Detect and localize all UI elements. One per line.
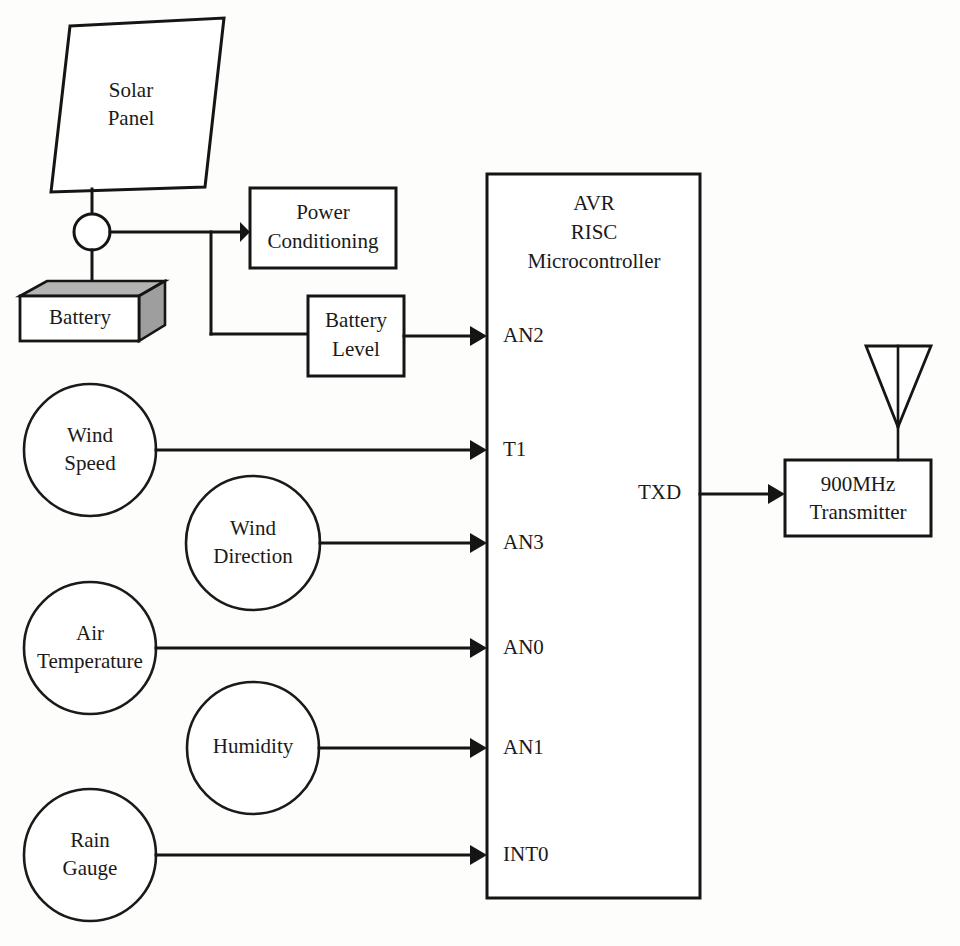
wind-direction-sensor-node[interactable]: Wind Direction <box>186 476 320 610</box>
air-temperature-label-line1: Air <box>76 621 104 645</box>
wind-direction-label-line1: Wind <box>230 516 276 540</box>
diagram-canvas: Solar Panel Battery Power Conditioning <box>0 0 960 946</box>
microcontroller-node[interactable]: AVR RISC Microcontroller AN2 T1 AN3 AN0 … <box>487 174 700 898</box>
rain-gauge-sensor-node[interactable]: Rain Gauge <box>24 789 156 921</box>
weather-station-diagram: Solar Panel Battery Power Conditioning <box>0 0 960 946</box>
solar-panel-label-line2: Panel <box>108 106 155 130</box>
battery-node[interactable]: Battery <box>20 281 165 341</box>
humidity-label: Humidity <box>213 734 294 758</box>
battery-level-label-line2: Level <box>332 337 380 361</box>
mcu-pin-label-txd: TXD <box>638 480 681 504</box>
rain-gauge-label-line1: Rain <box>70 828 110 852</box>
mcu-pin-label-t1: T1 <box>503 437 526 461</box>
battery-level-node[interactable]: Battery Level <box>308 296 404 376</box>
mcu-pin-label-an0: AN0 <box>503 635 544 659</box>
transmitter-label-line1: 900MHz <box>821 472 896 496</box>
arrowhead-an2 <box>470 326 487 346</box>
arrowhead-an3 <box>470 533 487 553</box>
arrowhead-an0 <box>470 638 487 658</box>
arrowhead-transmitter <box>768 484 785 504</box>
wind-speed-label-line1: Wind <box>67 423 113 447</box>
mcu-pin-label-an2: AN2 <box>503 323 544 347</box>
power-conditioning-label-line2: Conditioning <box>268 229 379 253</box>
wind-speed-sensor-node[interactable]: Wind Speed <box>24 384 156 516</box>
rain-gauge-label-line2: Gauge <box>63 856 118 880</box>
wind-speed-label-line2: Speed <box>64 451 116 475</box>
battery-label: Battery <box>49 305 111 329</box>
mcu-pin-label-an1: AN1 <box>503 735 544 759</box>
solar-panel-node[interactable]: Solar Panel <box>51 18 224 192</box>
mcu-pin-label-an3: AN3 <box>503 530 544 554</box>
air-temperature-label-line2: Temperature <box>37 649 143 673</box>
mcu-title-line1: AVR <box>573 191 615 215</box>
antenna-icon <box>866 346 931 460</box>
air-temperature-sensor-node[interactable]: Air Temperature <box>24 582 156 714</box>
mcu-title-line3: Microcontroller <box>528 249 661 273</box>
arrowhead-an1 <box>470 738 487 758</box>
arrowhead-t1 <box>470 440 487 460</box>
junction-dot-icon <box>74 214 110 250</box>
mcu-pin-label-int0: INT0 <box>503 842 549 866</box>
transmitter-label-line2: Transmitter <box>809 500 906 524</box>
power-conditioning-node[interactable]: Power Conditioning <box>250 188 396 268</box>
transmitter-node[interactable]: 900MHz Transmitter <box>785 460 931 536</box>
wind-direction-label-line2: Direction <box>213 544 293 568</box>
solar-panel-label-line1: Solar <box>109 78 153 102</box>
mcu-title-line2: RISC <box>571 220 618 244</box>
humidity-sensor-node[interactable]: Humidity <box>187 682 319 814</box>
arrowhead-int0 <box>470 845 487 865</box>
battery-level-label-line1: Battery <box>325 308 387 332</box>
power-conditioning-label-line1: Power <box>296 200 350 224</box>
